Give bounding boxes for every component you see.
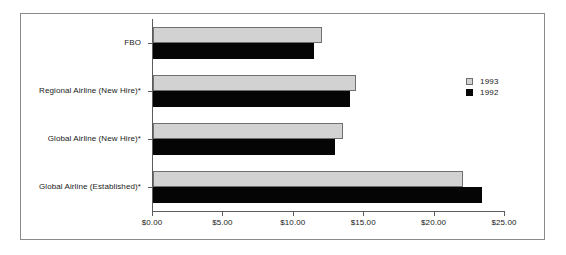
- legend-item: 1993: [466, 76, 499, 87]
- bar-1993: [153, 123, 343, 139]
- category-label: Global Airline (Established)*: [39, 182, 141, 191]
- x-tick-mark: [222, 211, 223, 216]
- x-tick-label: $5.00: [212, 218, 233, 227]
- legend-label: 1993: [480, 77, 499, 86]
- legend-swatch-1992: [466, 89, 473, 96]
- x-tick-label: $10.00: [280, 218, 305, 227]
- bar-1993: [153, 75, 356, 91]
- chart-legend: 19931992: [466, 76, 499, 98]
- x-tick-label: $20.00: [421, 218, 446, 227]
- chart-figure: FBORegional Airline (New Hire)*Global Ai…: [20, 13, 545, 240]
- category-axis-labels: FBORegional Airline (New Hire)*Global Ai…: [21, 19, 148, 211]
- x-tick-label: $0.00: [142, 218, 163, 227]
- bar-1992: [153, 43, 314, 59]
- legend-label: 1992: [480, 88, 499, 97]
- x-tick-label: $25.00: [491, 218, 516, 227]
- x-tick-mark: [504, 211, 505, 216]
- x-tick-label: $15.00: [351, 218, 376, 227]
- bar-1992: [153, 187, 482, 203]
- bar-1992: [153, 91, 350, 107]
- x-tick-mark: [293, 211, 294, 216]
- legend-item: 1992: [466, 87, 499, 98]
- x-tick-mark: [434, 211, 435, 216]
- category-label: FBO: [124, 38, 141, 47]
- x-tick-mark: [363, 211, 364, 216]
- plot-area: $0.00$5.00$10.00$15.00$20.00$25.00: [152, 19, 504, 211]
- x-tick-mark: [152, 211, 153, 216]
- bar-1993: [153, 171, 463, 187]
- bar-1992: [153, 139, 335, 155]
- category-label: Regional Airline (New Hire)*: [39, 86, 141, 95]
- bar-1993: [153, 27, 322, 43]
- legend-swatch-1993: [466, 78, 473, 85]
- x-axis-line: [152, 211, 504, 212]
- category-label: Global Airline (New Hire)*: [48, 134, 141, 143]
